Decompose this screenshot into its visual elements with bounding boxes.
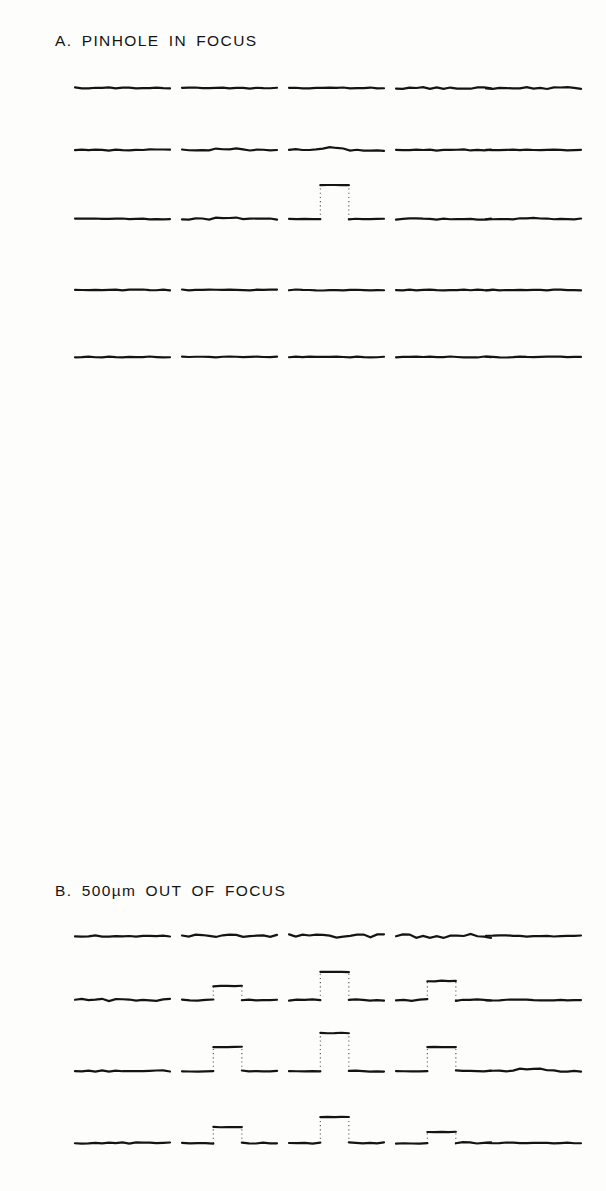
trace-cell [289, 290, 384, 291]
trace-line [75, 290, 170, 291]
trace-line [75, 357, 170, 358]
trace-cell [75, 219, 170, 220]
trace-line [75, 219, 170, 220]
trace-cell [486, 290, 581, 291]
trace-line [182, 218, 277, 220]
trace-line [396, 149, 491, 150]
trace-cell [289, 357, 384, 358]
trace-cell [486, 218, 581, 220]
trace-canvas [0, 28, 606, 375]
panel-b: B. 500µm OUT OF FOCUS [0, 430, 606, 835]
trace-cell [182, 290, 277, 291]
trace-cell [75, 290, 170, 291]
trace-line [486, 357, 581, 358]
trace-cell [289, 185, 384, 219]
trace-cell [182, 148, 277, 150]
trace-row [75, 147, 581, 151]
trace-line [182, 290, 277, 291]
panel-a-trace-grid [0, 28, 606, 375]
trace-cell [396, 87, 491, 89]
panel-a: A. PINHOLE IN FOCUS [0, 0, 606, 430]
trace-cell [182, 87, 277, 88]
trace-cell [486, 87, 581, 89]
trace-line [289, 357, 384, 358]
trace-cell [289, 147, 384, 151]
trace-cell [75, 149, 170, 150]
figure-root: A. PINHOLE IN FOCUS B. 500µm OUT OF FOCU… [0, 0, 606, 1191]
trace-line [396, 218, 491, 219]
trace-cell [486, 357, 581, 358]
trace-line [289, 88, 384, 89]
trace-cell [486, 150, 581, 151]
trace-line [396, 290, 491, 291]
trace-line [486, 87, 581, 89]
panel-c: C. IN FOCUS UNDER 500µm OF CORTEX [0, 835, 606, 1191]
trace-cell [289, 88, 384, 89]
trace-cell [396, 218, 491, 219]
trace-line [486, 218, 581, 220]
trace-line [486, 290, 581, 291]
trace-line [396, 87, 491, 89]
trace-line [75, 149, 170, 150]
trace-cell [75, 357, 170, 358]
trace-row [75, 357, 581, 358]
trace-line [289, 290, 384, 291]
trace-line [182, 357, 277, 358]
trace-cell [396, 357, 491, 358]
trace-line [396, 357, 491, 358]
trace-cell [182, 218, 277, 220]
trace-line [289, 147, 384, 151]
trace-cell [182, 357, 277, 358]
trace-row [75, 185, 581, 220]
trace-cell [396, 290, 491, 291]
trace-row [75, 290, 581, 291]
trace-cell [75, 87, 170, 88]
trace-cell [396, 149, 491, 150]
trace-row [75, 87, 581, 89]
trace-line [75, 87, 170, 88]
trace-line [349, 219, 384, 220]
trace-line [182, 87, 277, 88]
trace-line [486, 150, 581, 151]
trace-line [182, 148, 277, 150]
